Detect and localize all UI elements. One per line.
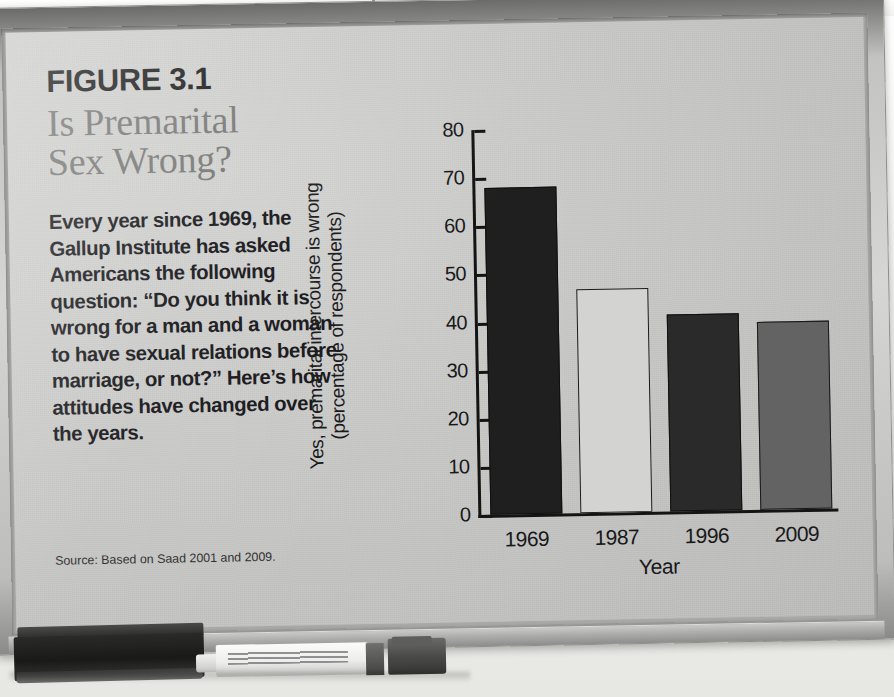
y-tick-70 [475, 178, 486, 181]
y-axis-ticks: 01020304050607080 [471, 124, 831, 131]
whiteboard: FIGURE 3.1 Is Premarital Sex Wrong? Ever… [0, 0, 894, 658]
x-axis-label: Year [479, 551, 839, 582]
x-tick-label-1969: 1969 [482, 526, 572, 552]
bar-1969 [484, 186, 562, 515]
figure-title: Is Premarital Sex Wrong? [47, 98, 348, 182]
printed-figure: FIGURE 3.1 Is Premarital Sex Wrong? Ever… [42, 41, 872, 616]
y-tick-label-10: 10 [425, 455, 469, 479]
bar-1987 [576, 288, 652, 513]
marker-tip [196, 654, 218, 672]
y-tick-label-70: 70 [420, 166, 464, 190]
bar-1996 [667, 313, 743, 512]
x-axis-tick-labels: 1969198719962009 [471, 124, 831, 131]
figure-body-text: Every year since 1969, the Gallup Instit… [49, 204, 341, 448]
y-tick-label-60: 60 [421, 215, 465, 239]
y-tick-label-20: 20 [424, 407, 468, 431]
marker-label-print [228, 649, 348, 665]
x-tick-label-1996: 1996 [662, 523, 752, 549]
figure-source-note: Source: Based on Saad 2001 and 2009. [55, 548, 375, 568]
figure-number: FIGURE 3.1 [46, 61, 211, 100]
y-tick-label-40: 40 [423, 311, 467, 335]
x-tick-label-2009: 2009 [752, 521, 842, 547]
marker-cap-clip [392, 636, 432, 645]
y-tick-80 [474, 130, 485, 133]
y-tick-label-30: 30 [424, 359, 468, 383]
y-tick-0 [481, 515, 492, 518]
tray-drop-shadow [10, 672, 470, 682]
whiteboard-surface: FIGURE 3.1 Is Premarital Sex Wrong? Ever… [5, 17, 874, 631]
whiteboard-frame-inner-bevel: FIGURE 3.1 Is Premarital Sex Wrong? Ever… [1, 13, 878, 635]
bar-chart: Yes, premarital intercourse is wrong (pe… [343, 113, 852, 602]
whiteboard-photo-scene: FIGURE 3.1 Is Premarital Sex Wrong? Ever… [0, 0, 894, 697]
y-axis-label: Yes, premarital intercourse is wrong (pe… [306, 161, 346, 492]
y-tick-label-80: 80 [419, 118, 463, 142]
y-tick-label-50: 50 [422, 263, 466, 287]
plot-area: 01020304050607080 1969198719962009 [471, 124, 838, 519]
marker-band [366, 643, 385, 675]
bar-series [471, 124, 831, 131]
y-tick-label-0: 0 [426, 503, 470, 527]
whiteboard-frame: FIGURE 3.1 Is Premarital Sex Wrong? Ever… [0, 0, 894, 656]
x-tick-label-1987: 1987 [572, 525, 662, 551]
bar-2009 [757, 321, 832, 510]
